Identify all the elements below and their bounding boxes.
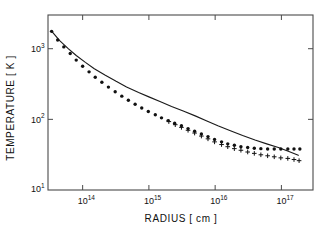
x-tick-label-0-mantissa: 10: [78, 196, 88, 206]
plus-marker: [219, 142, 224, 147]
x-axis-title: RADIUS [ cm ]: [145, 213, 218, 224]
frame-rect: [48, 15, 313, 190]
y-tick-label-1-exponent: 2: [41, 112, 45, 119]
plus-marker: [272, 155, 277, 160]
dot-marker: [69, 52, 72, 55]
dot-marker: [279, 147, 282, 150]
dot-marker: [292, 147, 295, 150]
x-tick-label-3: 1017: [276, 194, 294, 207]
dot-marker: [87, 70, 90, 73]
model-curve-path: [52, 31, 299, 155]
x-tick-label-3-mantissa: 10: [276, 196, 286, 206]
dot-marker: [94, 76, 97, 79]
plus-marker: [239, 148, 244, 153]
chart-figure: 1014101510161017 103102101 RADIUS [ cm ]…: [0, 0, 329, 232]
plus-marker: [297, 158, 302, 163]
y-tick-label-0-mantissa: 10: [31, 44, 41, 54]
dot-marker: [266, 147, 269, 150]
y-axis-title: TEMPERATURE [ K ]: [5, 55, 16, 161]
dot-marker: [133, 102, 136, 105]
series-dots: [50, 30, 302, 151]
plus-marker: [265, 153, 270, 158]
dot-marker: [50, 30, 53, 33]
y-tick-label-1: 102: [31, 112, 45, 125]
dot-marker: [62, 45, 65, 48]
x-tick-label-1-exponent: 15: [154, 194, 162, 201]
series-model-curve: [52, 31, 299, 155]
x-tick-labels: 1014101510161017: [78, 194, 294, 207]
y-tick-label-2-exponent: 1: [41, 182, 45, 189]
x-tick-label-2-exponent: 16: [220, 194, 228, 201]
x-tick-label-1-mantissa: 10: [144, 196, 154, 206]
plot-canvas: 1014101510161017 103102101 RADIUS [ cm ]…: [0, 0, 329, 232]
plus-marker: [212, 140, 217, 145]
plus-marker: [252, 151, 257, 156]
dot-marker: [286, 147, 289, 150]
dot-marker: [259, 147, 262, 150]
dot-marker: [246, 146, 249, 149]
x-tick-label-3-exponent: 17: [286, 194, 294, 201]
dot-marker: [75, 58, 78, 61]
y-tick-label-2: 101: [31, 182, 45, 195]
plus-marker: [286, 156, 291, 161]
dot-marker: [253, 147, 256, 150]
x-tick-label-1: 1015: [144, 194, 162, 207]
y-tick-label-0-exponent: 3: [41, 42, 45, 49]
plot-frame: [48, 15, 313, 190]
dot-marker: [81, 65, 84, 68]
x-tick-label-0-exponent: 14: [88, 194, 96, 201]
dot-marker: [298, 147, 301, 150]
axis-ticks: [48, 15, 313, 190]
plus-marker: [232, 146, 237, 151]
dot-marker: [127, 99, 130, 102]
dot-marker: [273, 147, 276, 150]
dot-marker: [107, 85, 110, 88]
dot-marker: [154, 113, 157, 116]
plus-marker: [206, 137, 211, 142]
y-tick-label-1-mantissa: 10: [31, 115, 41, 125]
plus-marker: [225, 144, 230, 149]
dot-marker: [140, 106, 143, 109]
dot-marker: [239, 145, 242, 148]
plus-marker: [292, 157, 297, 162]
x-tick-label-2-mantissa: 10: [210, 196, 220, 206]
dot-marker: [120, 94, 123, 97]
y-tick-labels: 103102101: [31, 42, 45, 194]
y-tick-label-0: 103: [31, 42, 45, 55]
dot-marker: [113, 90, 116, 93]
plus-marker: [259, 152, 264, 157]
y-tick-label-2-mantissa: 10: [31, 184, 41, 194]
plus-marker: [279, 156, 284, 161]
dot-marker: [147, 110, 150, 113]
plus-marker: [245, 150, 250, 155]
series-plus: [167, 119, 302, 163]
x-tick-label-0: 1014: [78, 194, 96, 207]
dot-marker: [160, 116, 163, 119]
x-tick-label-2: 1016: [210, 194, 228, 207]
dot-marker: [100, 81, 103, 84]
dot-marker: [56, 38, 59, 41]
